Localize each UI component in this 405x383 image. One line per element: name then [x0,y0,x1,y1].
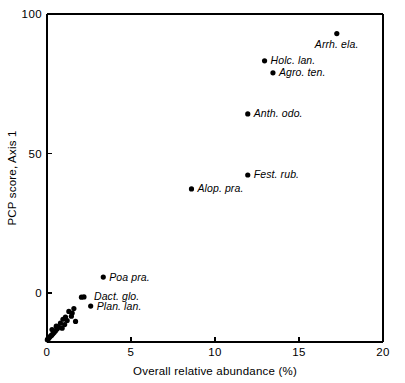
point-label-fest-rub: Fest. rub. [254,168,299,180]
x-tick-label-10: 10 [208,346,222,358]
y-axis-title: PCP score, Axis 1 [6,130,18,225]
point-label-holc-lan: Holc. lan. [271,54,316,66]
y-tick-label-50: 50 [28,148,42,160]
data-point [69,314,74,319]
point-label-plan-lan: Plan. lan. [97,300,142,312]
data-point [66,309,71,314]
x-tick-label-0: 0 [44,346,51,358]
point-label-arrh-ela: Arrh. ela. [314,38,359,50]
x-axis-title: Overall relative abundance (%) [133,365,297,377]
data-point-arrh-ela [334,31,339,36]
point-label-poa-pra: Poa pra. [109,271,150,283]
data-point-anth-odo [245,111,250,116]
data-point-holc-lan [262,58,267,63]
y-tick-label-0: 0 [35,287,42,299]
data-point-poa-pra [101,274,106,279]
data-point [71,306,76,311]
point-labels: Arrh. ela.Holc. lan.Agro. ten.Anth. odo.… [94,38,358,312]
data-point [45,337,50,342]
x-tick-label-5: 5 [128,346,135,358]
point-label-alop-pra: Alop. pra. [196,182,243,194]
scatter-plot-canvas: 05101520050100 Arrh. ela.Holc. lan.Agro.… [0,0,405,383]
data-point [49,327,54,332]
data-point [73,319,78,324]
point-label-agro-ten: Agro. ten. [278,66,326,78]
chart-figure: 05101520050100 Arrh. ela.Holc. lan.Agro.… [0,0,405,383]
data-point-plan-lan [88,304,93,309]
data-point-agro-ten [270,70,275,75]
x-tick-label-20: 20 [376,346,390,358]
data-point [54,324,59,329]
data-point-alop-pra [189,186,194,191]
x-tick-label-15: 15 [292,346,306,358]
data-point-dact-glo [81,294,86,299]
point-label-anth-odo: Anth. odo. [253,107,303,119]
data-point-fest-rub [245,172,250,177]
data-point [60,326,65,331]
y-tick-label-100: 100 [22,8,42,20]
